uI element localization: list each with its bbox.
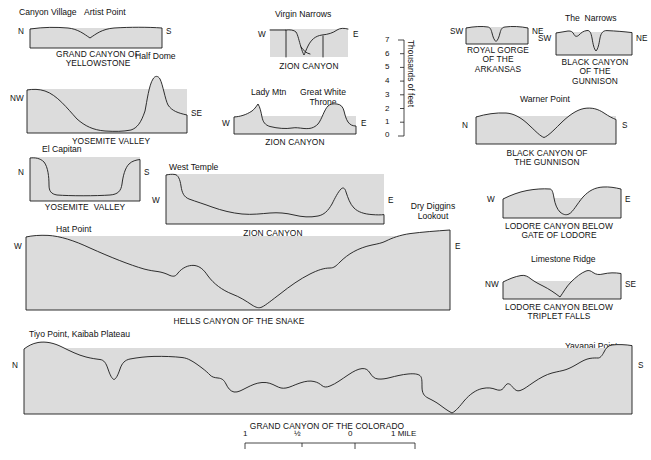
direction-left-w: W	[14, 242, 22, 251]
direction-right-se: SE	[191, 109, 202, 118]
direction-right-s: S	[638, 361, 643, 370]
terrain-grand-canyon-colorado	[24, 340, 632, 414]
axis-tick-5: 5	[385, 63, 389, 72]
terrain-royal-gorge	[466, 22, 528, 44]
direction-right-s: S	[622, 121, 627, 130]
axis-tick-3: 3	[385, 91, 389, 100]
caption-zion-lady-mtn: ZION CANYON	[242, 138, 348, 147]
direction-left-w: W	[222, 119, 230, 128]
direction-right-se: SE	[625, 280, 636, 289]
caption-black-canyon-narrows: BLACK CANYON OF THE GUNNISON	[536, 58, 651, 86]
axis-tick-1: 1	[385, 118, 389, 127]
axis-tick-6: 6	[385, 50, 389, 59]
direction-left-sw: SW	[538, 34, 551, 43]
point-label-canyon-village: Canyon Village	[19, 8, 77, 18]
terrain-yosemite-half-dome	[27, 63, 187, 133]
point-label-lady-mtn: Lady Mtn	[251, 88, 286, 98]
direction-right-e: E	[388, 196, 393, 205]
terrain-lodore-triplet	[503, 265, 621, 299]
direction-right-e: E	[353, 30, 358, 39]
direction-left-n: N	[462, 121, 468, 130]
point-label-half-dome: Half Dome	[135, 52, 176, 62]
direction-left-n: N	[18, 27, 24, 36]
direction-right-s: S	[166, 27, 171, 36]
direction-left-n: N	[12, 361, 18, 370]
scale-tick-1-mile: 1 MILE	[391, 430, 416, 439]
terrain-hells-canyon	[26, 232, 450, 310]
direction-right-e: E	[455, 242, 460, 251]
direction-right-ne: NE	[636, 34, 647, 43]
point-label-artist-point: Artist Point	[84, 8, 126, 18]
scale-tick-half: ½	[294, 430, 301, 439]
terrain-zion-lady-mtn	[234, 98, 356, 134]
point-label-the-narrows: The Narrows	[565, 14, 617, 24]
axis-line	[396, 40, 406, 136]
caption-black-canyon-warner: BLACK CANYON OF THE GUNNISON	[474, 149, 620, 168]
direction-left-sw: SW	[450, 27, 463, 36]
caption-zion-virgin-narrows: ZION CANYON	[264, 62, 354, 71]
direction-left-nw: NW	[485, 280, 499, 289]
terrain-black-canyon-narrows	[556, 27, 632, 55]
point-label-virgin-narrows: Virgin Narrows	[275, 10, 331, 20]
direction-right-e: E	[361, 119, 366, 128]
axis-tick-0: 0	[385, 131, 389, 140]
caption-royal-gorge: ROYAL GORGE OF THE ARKANSAS	[448, 46, 548, 74]
terrain-virgin-narrows	[270, 24, 348, 57]
caption-lodore-gate: LODORE CANYON BELOW GATE OF LODORE	[483, 222, 635, 241]
axis-tick-4: 4	[385, 77, 389, 86]
direction-left-w: W	[258, 30, 266, 39]
scale-bar-line	[245, 443, 417, 451]
axis-tick-7: 7	[385, 36, 389, 45]
terrain-yosemite-el-capitan	[30, 153, 140, 201]
point-label-limestone-ridge: Limestone Ridge	[531, 255, 596, 265]
caption-yosemite-el-capitan: YOSEMITE VALLEY	[22, 203, 148, 212]
axis-title: Thousands of feet	[406, 40, 415, 107]
point-label-tiyo-point: Tiyo Point, Kaibab Plateau	[29, 330, 130, 340]
direction-left-n: N	[18, 168, 24, 177]
terrain-lodore-gate	[503, 184, 621, 218]
direction-left-w: W	[487, 195, 495, 204]
point-label-dry-diggins-lookout: Dry Diggins Lookout	[405, 202, 461, 221]
caption-lodore-triplet: LODORE CANYON BELOW TRIPLET FALLS	[483, 303, 635, 322]
direction-left-nw: NW	[10, 94, 24, 103]
direction-right-s: S	[144, 168, 149, 177]
scale-tick-0: 0	[348, 430, 352, 439]
terrain-black-canyon-warner	[476, 104, 616, 144]
scale-tick-1-left: 1	[243, 430, 247, 439]
terrain-zion-west-temple	[166, 172, 384, 224]
terrain-yellowstone	[30, 22, 162, 48]
caption-hells-canyon: HELLS CANYON OF THE SNAKE	[124, 317, 354, 326]
axis-tick-2: 2	[385, 105, 389, 114]
caption-grand-canyon-colorado: GRAND CANYON OF THE COLORADO	[162, 422, 492, 431]
direction-left-w: W	[152, 196, 160, 205]
direction-right-e: E	[625, 195, 630, 204]
